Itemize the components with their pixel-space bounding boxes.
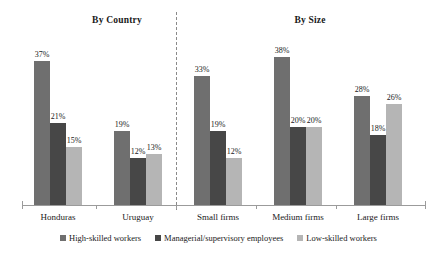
legend-swatch-icon: [155, 235, 161, 241]
bar: [386, 104, 402, 205]
category-label: Honduras: [18, 212, 98, 222]
bar: [354, 96, 370, 205]
category-label: Medium firms: [258, 212, 338, 222]
x-axis-tick: [425, 205, 426, 209]
legend-swatch-icon: [297, 235, 303, 241]
legend-label: High-skilled workers: [69, 234, 141, 243]
legend-item[interactable]: Low-skilled workers: [297, 234, 377, 243]
bar: [370, 135, 386, 205]
bar-value-label: 15%: [61, 136, 87, 145]
bar: [194, 76, 210, 205]
legend-label: Low-skilled workers: [306, 234, 377, 243]
bar: [146, 154, 162, 205]
x-axis-tick: [256, 205, 257, 209]
bar: [290, 127, 306, 205]
x-axis-tick: [176, 205, 177, 209]
bar-value-label: 33%: [189, 65, 215, 74]
bar-value-label: 28%: [349, 85, 375, 94]
bar-value-label: 26%: [381, 93, 407, 102]
x-axis-tick: [336, 205, 337, 209]
legend-swatch-icon: [60, 235, 66, 241]
legend-item[interactable]: High-skilled workers: [60, 234, 141, 243]
plot-area: 37%21%15%19%12%13%33%19%12%38%20%20%28%1…: [0, 0, 437, 258]
bar: [66, 147, 82, 205]
legend-item[interactable]: Managerial/supervisory employees: [155, 234, 283, 243]
bar-value-label: 19%: [205, 120, 231, 129]
bar: [306, 127, 322, 205]
legend-label: Managerial/supervisory employees: [164, 234, 283, 243]
chart-legend: High-skilled workersManagerial/superviso…: [0, 234, 437, 243]
bar-value-label: 19%: [109, 120, 135, 129]
bar: [226, 158, 242, 205]
bar: [274, 57, 290, 205]
x-axis-tick: [96, 205, 97, 209]
bar-value-label: 12%: [221, 147, 247, 156]
x-axis-baseline: [22, 205, 426, 206]
bar: [114, 131, 130, 205]
bar: [34, 61, 50, 205]
category-label: Uruguay: [98, 212, 178, 222]
bar-value-label: 13%: [141, 143, 167, 152]
category-label: Small firms: [178, 212, 258, 222]
bar-value-label: 20%: [301, 116, 327, 125]
x-axis-tick: [22, 205, 23, 209]
grouped-bar-chart: By Country By Size 37%21%15%19%12%13%33%…: [0, 0, 437, 258]
bar-value-label: 37%: [29, 50, 55, 59]
bar: [130, 158, 146, 205]
bar-value-label: 38%: [269, 46, 295, 55]
bar-value-label: 21%: [45, 112, 71, 121]
bar: [210, 131, 226, 205]
category-label: Large firms: [338, 212, 418, 222]
